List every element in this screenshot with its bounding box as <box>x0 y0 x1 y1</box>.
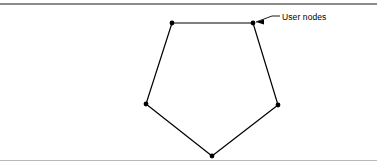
pentagon-diagram <box>0 0 377 168</box>
pentagon-edge <box>212 105 278 156</box>
user-node-dot <box>170 21 175 26</box>
user-node-dot <box>210 154 215 159</box>
pentagon-edge <box>146 104 212 156</box>
user-node-dot <box>276 103 281 108</box>
user-nodes-annotation-label: User nodes <box>282 12 326 22</box>
user-node-dot <box>251 21 256 26</box>
user-node-dots <box>144 21 281 159</box>
user-node-dot <box>144 102 149 107</box>
pentagon-edge <box>253 23 278 105</box>
pentagon-edge <box>146 23 172 104</box>
figure-container: User nodes <box>0 0 377 168</box>
pentagon-edges <box>146 23 278 156</box>
bottom-divider-rule <box>0 160 377 161</box>
leader-line-with-arrow <box>256 16 280 25</box>
